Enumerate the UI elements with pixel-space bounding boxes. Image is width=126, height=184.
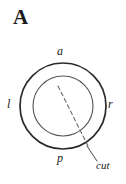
- axis-label-posterior: p: [57, 152, 63, 164]
- axis-label-left: l: [7, 98, 10, 110]
- cut-annotation-label: cut: [96, 160, 109, 171]
- axis-label-anterior: a: [57, 45, 63, 57]
- panel-letter-label: A: [13, 7, 28, 28]
- figure-panel-a: A a l r p cut: [0, 0, 126, 184]
- cut-dashed-line: [58, 86, 89, 148]
- axis-label-right: r: [108, 98, 113, 110]
- inner-circle-outline: [33, 76, 93, 136]
